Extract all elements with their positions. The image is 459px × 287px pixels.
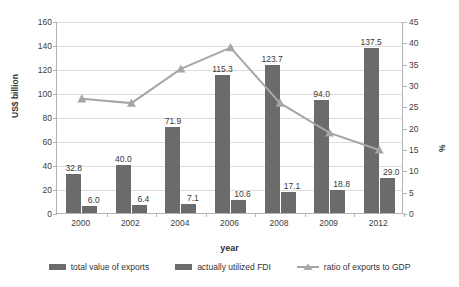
- legend-item-label: actually utilized FDI: [197, 262, 271, 272]
- y-axis-left-tick-label: 120: [38, 65, 52, 75]
- legend-item[interactable]: actually utilized FDI: [175, 262, 271, 272]
- bar-label-utilized-fdi: 6.0: [88, 195, 100, 205]
- chart-container: US$ billion % 020406080100120140160 0510…: [0, 0, 459, 287]
- bar-utilized-fdi: [181, 204, 196, 213]
- y-axis-right-tick-mark: [403, 65, 407, 66]
- x-axis-tick-label: 2002: [121, 218, 140, 228]
- y-axis-right-tick-label: 20: [409, 124, 418, 134]
- legend-item[interactable]: ratio of exports to GDP: [297, 262, 410, 272]
- y-axis-title-right: %: [437, 144, 447, 152]
- bar-total-exports: [265, 65, 280, 213]
- bar-label-total-exports: 94.0: [313, 89, 330, 99]
- y-axis-right-tick-label: 40: [409, 38, 418, 48]
- bar-utilized-fdi: [281, 192, 296, 213]
- bar-label-total-exports: 32.8: [66, 163, 83, 173]
- x-axis-tick-mark: [206, 213, 207, 217]
- gridline: [57, 46, 403, 47]
- bar-total-exports: [364, 48, 379, 213]
- bar-label-utilized-fdi: 10.6: [234, 189, 251, 199]
- bar-total-exports: [165, 127, 180, 213]
- legend-item[interactable]: total value of exports: [49, 262, 149, 272]
- x-axis-tick-label: 2008: [270, 218, 289, 228]
- bar-label-total-exports: 115.3: [212, 64, 233, 74]
- bar-total-exports: [314, 100, 329, 213]
- y-axis-right-tick-label: 35: [409, 60, 418, 70]
- gridline: [57, 94, 403, 95]
- legend-line-triangle-icon: [297, 263, 319, 271]
- y-axis-left-tick-mark: [53, 142, 57, 143]
- x-axis-title: year: [0, 243, 459, 253]
- bar-utilized-fdi: [231, 200, 246, 213]
- y-axis-right-tick-label: 0: [409, 209, 414, 219]
- x-axis-tick-label: 2004: [170, 218, 189, 228]
- x-axis-tick-mark: [354, 213, 355, 217]
- bar-label-utilized-fdi: 6.4: [137, 194, 149, 204]
- legend-item-label: total value of exports: [71, 262, 149, 272]
- y-axis-left-tick-mark: [53, 166, 57, 167]
- y-axis-left-tick-mark: [53, 94, 57, 95]
- bar-total-exports: [116, 165, 131, 213]
- x-axis-tick-label: 2000: [71, 218, 90, 228]
- y-axis-left-tick-label: 100: [38, 89, 52, 99]
- y-axis-right-tick-label: 30: [409, 81, 418, 91]
- line-marker-triangle: [77, 94, 86, 102]
- line-marker-triangle: [127, 99, 136, 107]
- y-axis-right-tick-mark: [403, 129, 407, 130]
- y-axis-right-tick-label: 5: [409, 188, 414, 198]
- y-axis-left-tick-label: 40: [43, 161, 52, 171]
- y-axis-left-tick-mark: [53, 46, 57, 47]
- y-axis-right-line: [402, 22, 403, 213]
- x-axis-tick-mark: [107, 213, 108, 217]
- bar-label-utilized-fdi: 29.0: [383, 167, 400, 177]
- legend-swatch-icon: [49, 264, 66, 270]
- line-marker-triangle: [226, 43, 235, 51]
- x-axis-tick-mark: [305, 213, 306, 217]
- gridline: [57, 166, 403, 167]
- x-axis-tick-mark: [156, 213, 157, 217]
- y-axis-left-tick-mark: [53, 214, 57, 215]
- bar-label-total-exports: 123.7: [261, 54, 282, 64]
- gridline: [57, 22, 403, 23]
- bar-total-exports: [66, 174, 81, 213]
- y-axis-title-left: US$ billion: [10, 74, 20, 118]
- chart-legend: total value of exportsactually utilized …: [0, 262, 459, 272]
- y-axis-left-tick-label: 80: [43, 113, 52, 123]
- bar-utilized-fdi: [132, 205, 147, 213]
- bar-label-total-exports: 40.0: [115, 154, 132, 164]
- y-axis-right-tick-label: 15: [409, 145, 418, 155]
- y-axis-right-tick-mark: [403, 107, 407, 108]
- y-axis-left-tick-label: 140: [38, 41, 52, 51]
- y-axis-right-tick-label: 25: [409, 102, 418, 112]
- gridline: [57, 190, 403, 191]
- y-axis-right-tick-label: 45: [409, 17, 418, 27]
- y-axis-left-tick-mark: [53, 190, 57, 191]
- gridline: [57, 142, 403, 143]
- y-axis-right-tick-mark: [403, 150, 407, 151]
- bar-label-total-exports: 137.5: [361, 37, 382, 47]
- y-axis-left-tick-mark: [53, 118, 57, 119]
- x-axis-tick-label: 2012: [369, 218, 388, 228]
- plot-area: 020406080100120140160 051015202530354045…: [56, 22, 403, 214]
- legend-item-label: ratio of exports to GDP: [324, 262, 410, 272]
- y-axis-left-tick-label: 160: [38, 17, 52, 27]
- y-axis-right-tick-mark: [403, 43, 407, 44]
- y-axis-left-tick-label: 0: [47, 209, 52, 219]
- bar-label-utilized-fdi: 7.1: [187, 193, 199, 203]
- gridline: [57, 118, 403, 119]
- x-axis-tick-label: 2009: [319, 218, 338, 228]
- y-axis-right-tick-mark: [403, 86, 407, 87]
- legend-swatch-icon: [175, 264, 192, 270]
- bar-total-exports: [215, 75, 230, 213]
- x-axis-tick-mark: [255, 213, 256, 217]
- bar-label-utilized-fdi: 17.1: [284, 181, 301, 191]
- bar-label-total-exports: 71.9: [165, 116, 182, 126]
- bar-utilized-fdi: [82, 206, 97, 213]
- bar-utilized-fdi: [380, 178, 395, 213]
- y-axis-right-tick-mark: [403, 193, 407, 194]
- y-axis-left-tick-mark: [53, 22, 57, 23]
- y-axis-left-tick-label: 20: [43, 185, 52, 195]
- line-marker-triangle: [176, 64, 185, 72]
- y-axis-right-tick-mark: [403, 22, 407, 23]
- y-axis-right-tick-label: 10: [409, 166, 418, 176]
- y-axis-left-tick-label: 60: [43, 137, 52, 147]
